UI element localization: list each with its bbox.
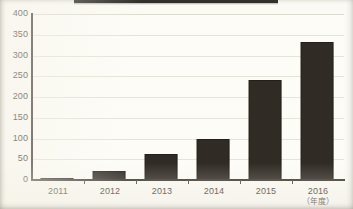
y-axis-tick-label: 200 (2, 92, 28, 101)
x-axis-tick-label: 2014 (186, 186, 242, 196)
bar-slot (239, 14, 291, 180)
y-axis-tick-label: 50 (2, 154, 28, 163)
y-axis-tick-label: 400 (2, 9, 28, 18)
x-axis-tick-label: 2015 (238, 186, 294, 196)
x-axis-unit-note: （年度） (290, 197, 346, 207)
y-axis-tick-label: 300 (2, 51, 28, 60)
x-axis-tick-mark (240, 180, 241, 184)
cropped-title-banner-shadow (74, 3, 278, 5)
y-axis-line (31, 13, 33, 181)
y-axis-tick-label: 150 (2, 113, 28, 122)
y-axis-tick-label: 350 (2, 30, 28, 39)
bar (197, 139, 230, 181)
bar (249, 80, 282, 180)
x-axis-tick-label: 2011 (30, 186, 86, 196)
x-axis-tick-label: 2013 (134, 186, 190, 196)
x-axis-tick-label: 2016（年度） (290, 186, 346, 207)
y-axis-tick-labels: 050100150200250300350400 (0, 0, 28, 209)
x-axis-tick-label: 2012 (82, 186, 138, 196)
x-axis-tick-mark (84, 180, 85, 184)
bar-slot (135, 14, 187, 180)
x-axis-tick-mark (188, 180, 189, 184)
y-axis-tick-label: 100 (2, 134, 28, 143)
plot-area (31, 14, 344, 180)
bar-slot (31, 14, 83, 180)
bar-slot (291, 14, 343, 180)
bar-slot (83, 14, 135, 180)
bar-chart-figure: 050100150200250300350400 201120122013201… (0, 0, 353, 209)
y-axis-tick-label: 0 (2, 175, 28, 184)
bar-slot (187, 14, 239, 180)
bar (301, 42, 334, 180)
bar (145, 154, 178, 180)
y-axis-tick-label: 250 (2, 71, 28, 80)
x-axis-tick-mark (136, 180, 137, 184)
x-axis-tick-mark (292, 180, 293, 184)
